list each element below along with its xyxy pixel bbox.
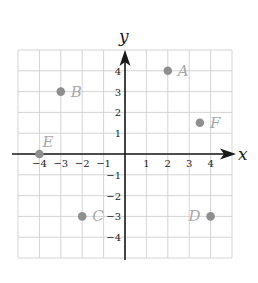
y-tick-label: 2 xyxy=(115,107,121,118)
point-f: F xyxy=(196,114,221,132)
point-marker-icon xyxy=(57,87,66,96)
point-marker-icon xyxy=(196,119,205,128)
x-axis-label: x xyxy=(238,144,248,164)
y-tick-label: −4 xyxy=(106,232,121,243)
point-label: F xyxy=(209,114,221,132)
x-tick-label: −3 xyxy=(53,158,68,169)
y-tick-label: −1 xyxy=(106,170,121,181)
y-tick-label: −2 xyxy=(106,191,121,202)
y-tick-label: 1 xyxy=(115,128,121,139)
point-label: B xyxy=(70,83,82,101)
data-points: ABCDEF xyxy=(35,62,221,226)
x-tick-label: −2 xyxy=(75,158,90,169)
point-label: E xyxy=(41,133,53,151)
x-tick-label: −4 xyxy=(32,158,47,169)
point-label: D xyxy=(188,207,201,225)
point-label: A xyxy=(176,62,189,80)
x-tick-label: 1 xyxy=(143,158,149,169)
y-axis-label: y xyxy=(118,26,129,46)
point-label: C xyxy=(92,207,104,225)
y-tick-label: 4 xyxy=(115,66,121,77)
coordinate-plane: x y −4−3−2−112344321−1−2−3−4 ABCDEF xyxy=(0,0,258,283)
y-tick-label: −3 xyxy=(106,211,121,222)
x-tick-label: 4 xyxy=(207,158,213,169)
x-tick-label: 3 xyxy=(186,158,192,169)
x-tick-label: −1 xyxy=(96,158,111,169)
point-marker-icon xyxy=(164,67,173,76)
y-tick-label: 3 xyxy=(115,87,121,98)
point-marker-icon xyxy=(78,212,87,221)
point-marker-icon xyxy=(206,212,215,221)
x-tick-label: 2 xyxy=(165,158,171,169)
